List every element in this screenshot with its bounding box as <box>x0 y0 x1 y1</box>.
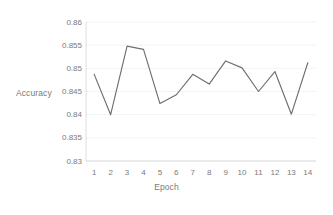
x-axis-title: Epoch <box>0 182 333 192</box>
x-tick-label: 4 <box>136 168 152 177</box>
x-tick-label: 6 <box>168 168 184 177</box>
series-line-accuracy <box>94 46 308 115</box>
x-tick-label: 10 <box>234 168 250 177</box>
x-tick-label: 14 <box>300 168 316 177</box>
x-tick-label: 2 <box>103 168 119 177</box>
x-tick-label: 8 <box>201 168 217 177</box>
accuracy-vs-epoch-line-chart: Accuracy 0.860.8550.850.8450.840.8350.83… <box>0 0 333 215</box>
x-tick-label: 7 <box>185 168 201 177</box>
gridlines <box>86 22 316 161</box>
x-tick-label: 3 <box>119 168 135 177</box>
x-tick-label: 12 <box>267 168 283 177</box>
x-tick-label: 11 <box>251 168 267 177</box>
x-tick-label: 13 <box>283 168 299 177</box>
x-tick-label: 5 <box>152 168 168 177</box>
x-tick-label: 9 <box>218 168 234 177</box>
x-tick-label: 1 <box>86 168 102 177</box>
